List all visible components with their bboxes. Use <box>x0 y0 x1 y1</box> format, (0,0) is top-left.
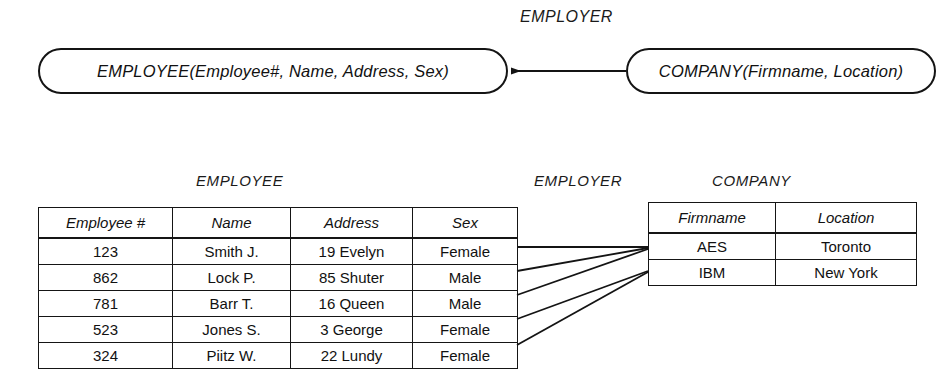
cell-employee-number: 123 <box>39 238 173 265</box>
cell-address: 16 Queen <box>291 291 413 317</box>
table-title-employer: EMPLOYER <box>534 172 622 189</box>
table-row[interactable]: 523 Jones S. 3 George Female <box>39 317 518 343</box>
relationship-link-781-aes <box>517 249 648 295</box>
table-title-employee: EMPLOYEE <box>196 172 283 189</box>
schema-relationship-label: EMPLOYER <box>520 8 613 26</box>
table-row[interactable]: 324 Piitz W. 22 Lundy Female <box>39 343 518 369</box>
relationship-link-862-aes <box>517 248 648 271</box>
cell-address: 19 Evelyn <box>291 238 413 265</box>
table-header-row: Firmname Location <box>649 203 917 234</box>
cell-employee-number: 781 <box>39 291 173 317</box>
cell-name: Jones S. <box>173 317 291 343</box>
table-header-row: Employee # Name Address Sex <box>39 208 518 239</box>
cell-address: 3 George <box>291 317 413 343</box>
cell-name: Smith J. <box>173 238 291 265</box>
entity-box-employee[interactable]: EMPLOYEE(Employee#, Name, Address, Sex) <box>38 48 508 94</box>
column-header-firmname: Firmname <box>649 203 776 234</box>
column-header-name: Name <box>173 208 291 239</box>
column-header-employee-number: Employee # <box>39 208 173 239</box>
cell-sex: Female <box>413 317 518 343</box>
cell-name: Lock P. <box>173 265 291 291</box>
cell-employee-number: 324 <box>39 343 173 369</box>
cell-sex: Female <box>413 343 518 369</box>
table-row[interactable]: 862 Lock P. 85 Shuter Male <box>39 265 518 291</box>
cell-firmname: AES <box>649 233 776 260</box>
cell-sex: Male <box>413 265 518 291</box>
cell-name: Piitz W. <box>173 343 291 369</box>
cell-address: 22 Lundy <box>291 343 413 369</box>
entity-employee-label: EMPLOYEE(Employee#, Name, Address, Sex) <box>97 62 449 81</box>
entity-company-label: COMPANY(Firmname, Location) <box>659 62 903 81</box>
cell-name: Barr T. <box>173 291 291 317</box>
column-header-sex: Sex <box>413 208 518 239</box>
relationship-link-523-ibm <box>517 271 648 319</box>
cell-firmname: IBM <box>649 260 776 286</box>
cell-location: New York <box>776 260 917 286</box>
company-instance-table[interactable]: Firmname Location AES Toronto IBM New Yo… <box>648 202 917 286</box>
table-title-company: COMPANY <box>712 172 791 189</box>
employee-instance-table[interactable]: Employee # Name Address Sex 123 Smith J.… <box>38 207 518 369</box>
cell-sex: Male <box>413 291 518 317</box>
cell-location: Toronto <box>776 233 917 260</box>
column-header-address: Address <box>291 208 413 239</box>
table-row[interactable]: 781 Barr T. 16 Queen Male <box>39 291 518 317</box>
relationship-link-324-ibm <box>517 272 648 345</box>
table-row[interactable]: 123 Smith J. 19 Evelyn Female <box>39 238 518 265</box>
cell-employee-number: 523 <box>39 317 173 343</box>
entity-box-company[interactable]: COMPANY(Firmname, Location) <box>626 48 936 94</box>
cell-sex: Female <box>413 238 518 265</box>
column-header-location: Location <box>776 203 917 234</box>
cell-address: 85 Shuter <box>291 265 413 291</box>
table-row[interactable]: AES Toronto <box>649 233 917 260</box>
cell-employee-number: 862 <box>39 265 173 291</box>
table-row[interactable]: IBM New York <box>649 260 917 286</box>
